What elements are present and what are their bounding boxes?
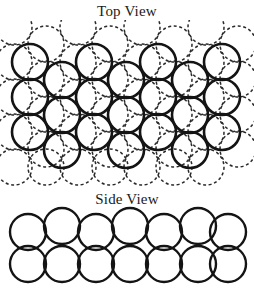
lower-layer-sphere (60, 9, 96, 45)
side-view-upper-sphere (78, 214, 114, 250)
side-view-title: Side View (0, 190, 254, 208)
side-view-upper-sphere (112, 208, 148, 244)
side-view-lower-sphere (10, 246, 46, 282)
lower-layer-sphere (0, 9, 32, 45)
side-view-lower-sphere (78, 246, 114, 282)
side-view-drawing (10, 208, 246, 282)
side-view-lower-sphere (112, 246, 148, 282)
lower-layer-sphere (0, 149, 32, 185)
side-view-lower-sphere (146, 246, 182, 282)
side-view-upper-sphere (44, 208, 80, 244)
side-view-upper-sphere (146, 214, 182, 250)
lower-layer-sphere (188, 9, 224, 45)
packing-diagram-figure: Top View Side View (0, 0, 254, 293)
lower-layer-sphere (124, 9, 160, 45)
side-view-upper-sphere (10, 214, 46, 250)
top-view-drawing (0, 0, 254, 293)
side-view-lower-sphere (44, 246, 80, 282)
